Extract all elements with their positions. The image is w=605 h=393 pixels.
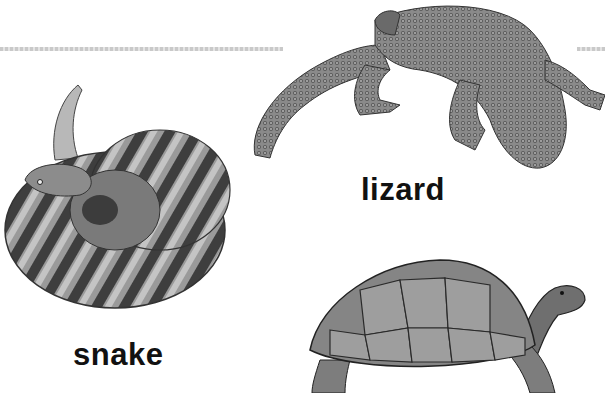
snake-label: snake <box>73 337 163 373</box>
tortoise-illustration <box>300 250 605 393</box>
divider-left <box>0 47 283 51</box>
snake-illustration <box>0 80 240 310</box>
lizard-label: lizard <box>361 172 445 208</box>
lizard-illustration <box>250 0 605 170</box>
